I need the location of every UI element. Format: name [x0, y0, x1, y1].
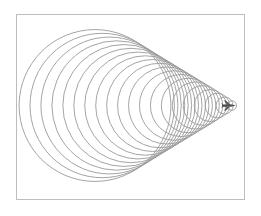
wavefront-circle	[63, 45, 185, 167]
wavefront-circles	[19, 30, 237, 182]
wavefront-circle	[19, 30, 171, 182]
wavefront-circle	[96, 56, 195, 155]
diagram-canvas	[0, 0, 261, 216]
mach-cone-diagram	[0, 0, 261, 216]
